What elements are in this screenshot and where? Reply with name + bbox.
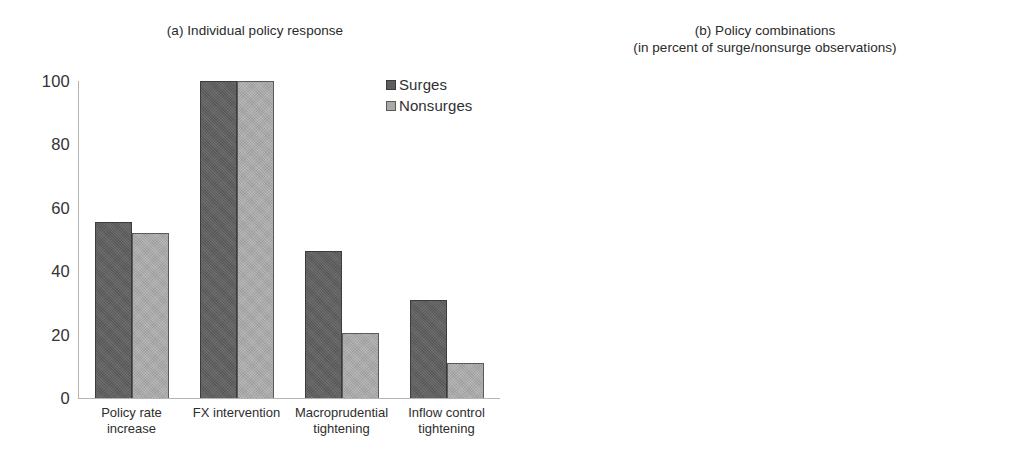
panel-a-bar-nonsurges-macroprudential-tightening [342,333,379,398]
panel-a-xlabel-policy-rate-increase: Policy rate increase [79,405,184,437]
panel-a-group-inflow-control-tightening [394,81,499,398]
panel-a-bar-surges-policy-rate-increase [95,222,132,398]
panel-a-xlabel-fx-intervention: FX intervention [184,405,289,437]
panel-a-ytick-80: 80 [51,135,70,154]
panel-a-group-fx-intervention [184,81,289,398]
panel-a-bar-surges-fx-intervention [200,81,237,398]
panel-a-x-axis-line [78,398,500,399]
panel-a-title: (a) Individual policy response [0,22,510,39]
panel-a-ytick-40: 40 [51,262,70,281]
panel-b-title-line-1: (b) Policy combinations [695,23,836,38]
panel-a-individual-policy-response: (a) Individual policy response Surges No… [0,0,510,466]
panel-a-bar-nonsurges-fx-intervention [237,81,274,398]
panel-b-title: (b) Policy combinations (in percent of s… [510,22,1020,56]
panel-a-bar-surges-macroprudential-tightening [305,251,342,398]
panel-a-bar-surges-inflow-control-tightening [410,300,447,398]
panel-a-group-policy-rate-increase [79,81,184,398]
panel-a-bar-nonsurges-inflow-control-tightening [447,363,484,398]
panel-a-xlabel-macroprudential-tightening: Macroprudential tightening [289,405,394,437]
panel-a-ytick-60: 60 [51,198,70,217]
panel-a-ytick-20: 20 [51,325,70,344]
panel-a-ytick-0: 0 [61,389,70,408]
figure-container: (a) Individual policy response Surges No… [0,0,1020,466]
panel-b-title-line-2: (in percent of surge/nonsurge observatio… [510,39,1020,56]
panel-a-group-macroprudential-tightening [289,81,394,398]
panel-a-plot-area: 0 20 40 60 80 100 [79,81,499,398]
panel-a-xlabel-inflow-control-tightening: Inflow control tightening [394,405,499,437]
panel-b-policy-combinations: (b) Policy combinations (in percent of s… [510,0,1020,466]
panel-a-x-tick-labels: Policy rate increase FX intervention Mac… [79,405,499,437]
panel-a-bar-nonsurges-policy-rate-increase [132,233,169,398]
panel-a-ytick-100: 100 [42,72,70,91]
panel-a-bar-groups [79,81,499,398]
